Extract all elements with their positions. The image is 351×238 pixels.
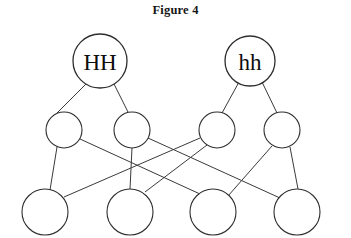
node-label-parent-hh-recessive: hh (239, 50, 263, 75)
parental-generation-group: HH hh (73, 34, 275, 88)
f1-generation-group (46, 112, 300, 148)
edge-parent2-to-f1d (262, 82, 277, 113)
node-f2-b (107, 189, 153, 235)
edge-f1d-to-f2c (228, 146, 272, 196)
node-f1-b (114, 112, 150, 148)
edge-parent2-to-f1c (222, 82, 239, 113)
edge-f1c-to-f2b (145, 145, 207, 192)
edge-f1a-to-f2c (80, 139, 200, 194)
node-f2-a (22, 189, 68, 235)
edge-group (50, 82, 298, 198)
node-f1-a (46, 112, 82, 148)
edge-f1a-to-f2a (50, 147, 57, 190)
node-f2-d (274, 189, 320, 235)
pedigree-diagram: HH hh (0, 0, 351, 238)
node-f1-c (199, 112, 235, 148)
node-f2-c (190, 189, 236, 235)
node-label-parent-hh: HH (83, 50, 116, 75)
node-f1-d (264, 112, 300, 148)
edge-parent1-to-f1a (57, 84, 86, 113)
figure-container: Figure 4 HH hh (0, 0, 351, 238)
edge-f1d-to-f2d (290, 147, 298, 189)
edge-parent1-to-f1b (114, 84, 128, 112)
